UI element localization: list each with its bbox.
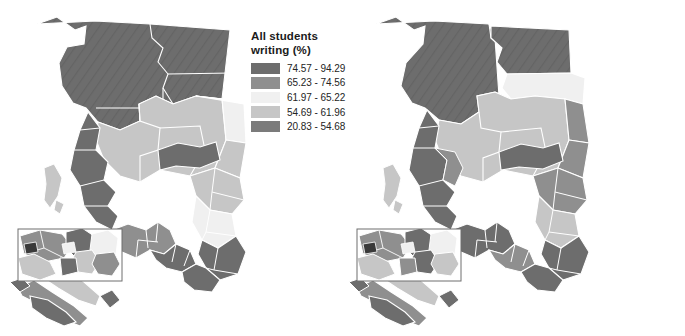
map-panel-writing: All students writing (%) 74.57 - 94.29 6… — [0, 0, 342, 336]
legend-swatch — [251, 63, 280, 75]
map-numeracy-svg — [343, 0, 593, 336]
legend-swatch — [251, 121, 280, 133]
legend-row: 54.69 - 61.96 — [251, 105, 351, 120]
legend-label: 74.57 - 94.29 — [287, 63, 345, 74]
legend-swatch — [251, 106, 280, 118]
legend-row: 20.83 - 54.68 — [251, 119, 351, 134]
legend-label: 20.83 - 54.68 — [287, 121, 345, 132]
map-writing — [0, 0, 250, 336]
map-writing-inset-content — [18, 228, 122, 281]
map-panel-numeracy: All students numeracy (%) 68.03 - 88.48 … — [343, 0, 685, 336]
map-numeracy-inset-content — [357, 228, 461, 281]
map-numeracy — [343, 0, 593, 336]
legend-label: 65.23 - 74.56 — [287, 77, 345, 88]
legend-label: 61.97 - 65.22 — [287, 92, 345, 103]
legend-swatch — [251, 77, 280, 89]
legend-swatch — [251, 92, 280, 104]
legend-writing-title-line1: All students — [251, 30, 351, 44]
map-writing-svg — [0, 0, 250, 336]
map-writing-regions — [10, 17, 246, 326]
legend-row: 61.97 - 65.22 — [251, 90, 351, 105]
legend-writing-rows: 74.57 - 94.29 65.23 - 74.56 61.97 - 65.2… — [251, 61, 351, 134]
map-numeracy-regions — [349, 17, 589, 326]
legend-writing-title-line2: writing (%) — [251, 44, 351, 58]
legend-writing: All students writing (%) 74.57 - 94.29 6… — [251, 30, 351, 134]
figure-canvas: All students writing (%) 74.57 - 94.29 6… — [0, 0, 685, 336]
legend-row: 65.23 - 74.56 — [251, 76, 351, 91]
legend-label: 54.69 - 61.96 — [287, 107, 345, 118]
legend-row: 74.57 - 94.29 — [251, 61, 351, 76]
